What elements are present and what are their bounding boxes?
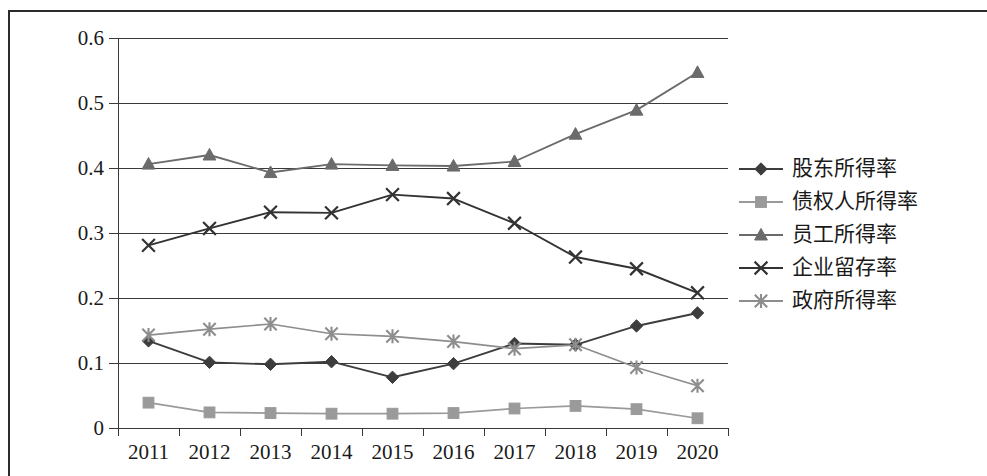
legend-label: 企业留存率 <box>792 257 897 278</box>
y-axis-tick <box>109 298 118 299</box>
legend-item-1[interactable]: 股东所得率 <box>738 152 978 185</box>
data-point-triangle <box>508 155 521 167</box>
legend-item-2[interactable]: 债权人所得率 <box>738 185 978 218</box>
legend-marker-square-icon <box>738 192 784 212</box>
series-layer <box>118 38 728 428</box>
data-point-square <box>692 413 703 424</box>
data-point-square <box>387 408 398 419</box>
legend-label: 股东所得率 <box>792 158 897 179</box>
x-axis-tick <box>606 428 607 436</box>
data-point-cross <box>203 222 216 235</box>
x-axis-tick-label: 2012 <box>189 442 231 463</box>
x-axis-tick-label: 2019 <box>616 442 658 463</box>
x-axis-tick <box>545 428 546 436</box>
y-axis-tick-label: 0.1 <box>78 353 104 374</box>
x-axis-tick-label: 2015 <box>372 442 414 463</box>
chart-figure: 00.10.20.30.40.50.6 20112012201320142015… <box>0 0 987 476</box>
series-2 <box>143 397 703 423</box>
series-5 <box>142 317 703 393</box>
chart-legend: 股东所得率债权人所得率员工所得率企业留存率政府所得率 <box>738 152 978 317</box>
data-point-diamond <box>630 320 642 332</box>
y-axis-tick <box>109 428 118 429</box>
series-3 <box>142 66 704 178</box>
y-axis-tick-label: 0.5 <box>78 93 104 114</box>
x-axis-tick-label: 2017 <box>494 442 536 463</box>
data-point-square <box>448 408 459 419</box>
data-point-square <box>509 403 520 414</box>
x-axis-tick-label: 2020 <box>677 442 719 463</box>
data-point-square <box>631 404 642 415</box>
data-point-square <box>756 196 767 207</box>
series-line <box>149 403 698 419</box>
y-axis-tick-label: 0.3 <box>78 223 104 244</box>
x-axis-tick <box>667 428 668 436</box>
data-point-triangle <box>203 148 216 160</box>
legend-item-3[interactable]: 员工所得率 <box>738 218 978 251</box>
data-point-square <box>570 401 581 412</box>
legend-marker-cross-icon <box>738 258 784 278</box>
data-point-cross <box>508 217 521 230</box>
data-point-square <box>265 408 276 419</box>
x-axis-tick <box>301 428 302 436</box>
x-axis-tick-label: 2011 <box>128 442 169 463</box>
data-point-diamond <box>203 356 215 368</box>
series-line <box>149 72 698 172</box>
x-axis-tick <box>179 428 180 436</box>
data-point-diamond <box>691 307 703 319</box>
data-point-triangle <box>630 104 643 116</box>
data-point-triangle <box>691 66 704 78</box>
data-point-diamond <box>264 358 276 370</box>
series-line <box>149 195 698 293</box>
y-axis-tick <box>109 38 118 39</box>
legend-label: 员工所得率 <box>792 224 897 245</box>
data-point-cross <box>142 239 155 252</box>
data-point-asterisk <box>691 379 703 393</box>
series-line <box>149 313 698 377</box>
x-axis-tick <box>118 428 119 436</box>
data-point-square <box>326 408 337 419</box>
series-1 <box>142 307 703 384</box>
y-axis-tick-label: 0.6 <box>78 28 104 49</box>
document-frame-left-rule <box>8 10 10 476</box>
legend-marker-triangle-icon <box>738 225 784 245</box>
y-axis-tick-label: 0.2 <box>78 288 104 309</box>
y-axis-tick <box>109 233 118 234</box>
y-axis-tick <box>109 103 118 104</box>
legend-item-5[interactable]: 政府所得率 <box>738 284 978 317</box>
y-axis-tick <box>109 168 118 169</box>
legend-label: 政府所得率 <box>792 290 897 311</box>
data-point-asterisk <box>630 361 642 375</box>
legend-marker-asterisk-icon <box>738 291 784 311</box>
data-point-square <box>143 397 154 408</box>
y-axis-tick-label: 0 <box>94 418 105 439</box>
legend-label: 债权人所得率 <box>792 191 918 212</box>
y-axis-tick <box>109 363 118 364</box>
data-point-diamond <box>325 356 337 368</box>
legend-item-4[interactable]: 企业留存率 <box>738 251 978 284</box>
x-axis-tick <box>728 428 729 436</box>
x-axis-tick <box>240 428 241 436</box>
series-4 <box>142 188 704 299</box>
data-point-cross <box>691 286 704 299</box>
data-point-diamond <box>755 162 767 174</box>
x-axis-tick-label: 2013 <box>250 442 292 463</box>
data-point-diamond <box>386 371 398 383</box>
document-frame-top-rule <box>8 10 987 12</box>
legend-marker-diamond-icon <box>738 159 784 179</box>
x-axis-tick-label: 2014 <box>311 442 353 463</box>
data-point-diamond <box>447 357 459 369</box>
x-axis-tick <box>362 428 363 436</box>
x-axis-tick-label: 2016 <box>433 442 475 463</box>
x-axis-tick <box>423 428 424 436</box>
x-axis-tick-label: 2018 <box>555 442 597 463</box>
y-axis-tick-label: 0.4 <box>78 158 104 179</box>
data-point-square <box>204 407 215 418</box>
plot-area: 00.10.20.30.40.50.6 20112012201320142015… <box>118 38 728 428</box>
x-axis-tick <box>484 428 485 436</box>
